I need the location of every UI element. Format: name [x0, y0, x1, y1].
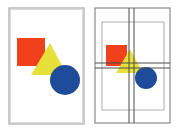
- grid-overlay-panel: [95, 8, 170, 123]
- layout-diagram: [0, 0, 177, 133]
- blue-circle: [135, 67, 157, 89]
- composition-panel: [9, 8, 84, 124]
- blue-circle: [50, 65, 80, 95]
